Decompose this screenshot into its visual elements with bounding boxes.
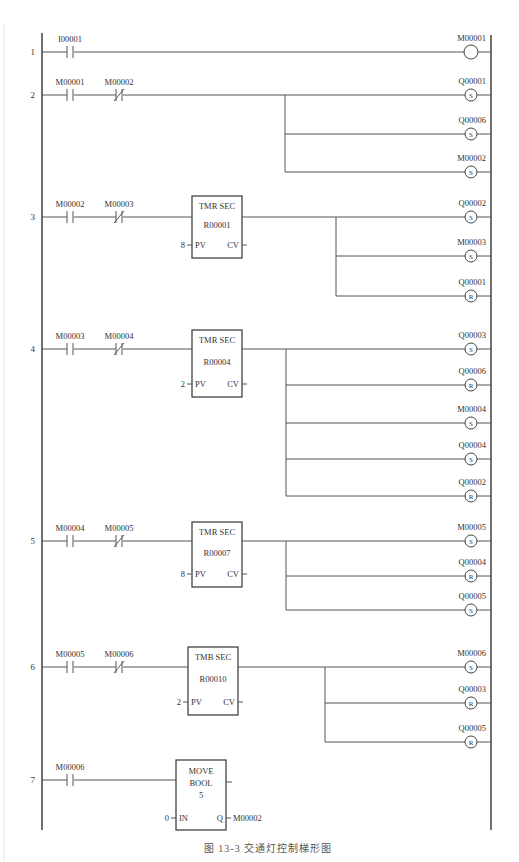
- set-coil[interactable]: SQ00001: [459, 76, 491, 101]
- move-output-target: M00002: [233, 813, 262, 823]
- coil-type-letter: S: [469, 169, 473, 177]
- rung-number: 2: [31, 90, 36, 100]
- rung-5[interactable]: 5M00004M00005TMR SECR000078PVCVSM00005RQ…: [31, 522, 492, 616]
- in-pin-label: IN: [179, 813, 188, 823]
- pv-pin-label: PV: [195, 569, 207, 579]
- normally-closed-contact[interactable]: M00004: [105, 331, 135, 355]
- contact-label: M00005: [105, 523, 134, 533]
- pv-pin-label: PV: [191, 697, 203, 707]
- timer-register: R00004: [204, 357, 232, 367]
- rung-4[interactable]: 4M00003M00004TMR SECR000042PVCVSQ00003RQ…: [31, 330, 492, 502]
- coil-label: M00005: [457, 522, 486, 532]
- rung-7[interactable]: 7M00006MOVEBOOL50INQM00002: [31, 760, 262, 830]
- timer-function-block[interactable]: TMR SECR000078PVCV: [181, 522, 247, 587]
- set-coil[interactable]: SQ00006: [285, 115, 491, 140]
- set-coil[interactable]: SM00002: [285, 153, 491, 178]
- contact-label: M00002: [105, 77, 134, 87]
- output-coil[interactable]: M00001: [457, 33, 491, 59]
- move-function-block[interactable]: MOVEBOOL50INQM00002: [165, 760, 262, 830]
- reset-coil[interactable]: RQ00006: [286, 366, 491, 391]
- contact-label: M00004: [56, 523, 86, 533]
- coil-type-letter: R: [469, 573, 474, 581]
- rung-3[interactable]: 3M00002M00003TMR SECR000018PVCVSQ00002SM…: [31, 196, 492, 302]
- coil-type-letter: R: [469, 493, 474, 501]
- contact-label: M00003: [105, 199, 134, 209]
- contact-label: M00005: [56, 649, 85, 659]
- reset-coil[interactable]: RQ00004: [286, 557, 491, 582]
- ladder-diagram: 1I00001M000012M00001M00002SQ00001SQ00006…: [0, 0, 519, 862]
- coil-label: Q00004: [459, 440, 487, 450]
- preset-value: 8: [181, 569, 185, 579]
- normally-open-contact[interactable]: I00001: [58, 34, 82, 58]
- normally-closed-contact[interactable]: M00002: [105, 77, 134, 101]
- normally-closed-contact[interactable]: M00006: [105, 649, 134, 673]
- rung-number: 6: [31, 662, 36, 672]
- contact-label: I00001: [58, 34, 82, 44]
- contact-label: M00006: [105, 649, 134, 659]
- cv-pin-label: CV: [227, 379, 240, 389]
- timer-function-block[interactable]: TMR SECR000042PVCV: [181, 330, 247, 397]
- coil-icon: [464, 45, 478, 59]
- coil-label: Q00001: [459, 76, 486, 86]
- preset-value: 2: [177, 697, 181, 707]
- rung-2[interactable]: 2M00001M00002SQ00001SQ00006SM00002: [31, 76, 492, 178]
- coil-label: M00002: [457, 153, 486, 163]
- timer-register: R00007: [204, 548, 231, 558]
- timer-register: R00010: [200, 674, 227, 684]
- coil-type-letter: S: [469, 607, 473, 615]
- coil-label: Q00005: [459, 591, 486, 601]
- rung-1[interactable]: 1I00001M00001: [31, 33, 492, 59]
- timer-function-block[interactable]: TMR SECR000018PVCV: [181, 196, 247, 258]
- coil-label: Q00003: [459, 330, 486, 340]
- contact-label: M00006: [56, 762, 85, 772]
- move-input-value: 0: [165, 813, 169, 823]
- coil-label: Q00003: [459, 684, 486, 694]
- coil-label: Q00006: [459, 115, 486, 125]
- reset-coil[interactable]: RQ00005: [325, 723, 491, 748]
- normally-open-contact[interactable]: M00001: [56, 77, 85, 101]
- rung-6[interactable]: 6M00005M00006TMB SECR000102PVCVSM00006RQ…: [31, 647, 492, 748]
- normally-open-contact[interactable]: M00005: [56, 649, 85, 673]
- set-coil[interactable]: SM00003: [336, 237, 491, 262]
- coil-label: Q00005: [459, 723, 486, 733]
- rung-number: 5: [31, 536, 36, 546]
- coil-type-letter: R: [469, 293, 474, 301]
- cv-pin-label: CV: [223, 697, 236, 707]
- normally-closed-contact[interactable]: M00005: [105, 523, 134, 547]
- set-coil[interactable]: SQ00005: [286, 591, 491, 616]
- set-coil[interactable]: SM00004: [286, 404, 491, 429]
- figure-caption: 图 13-3 交通灯控制梯形图: [204, 842, 332, 854]
- coil-type-letter: R: [469, 700, 474, 708]
- reset-coil[interactable]: RQ00002: [286, 477, 491, 502]
- cv-pin-label: CV: [227, 569, 240, 579]
- coil-type-letter: S: [469, 92, 473, 100]
- normally-open-contact[interactable]: M00003: [56, 331, 85, 355]
- set-coil[interactable]: SQ00003: [459, 330, 491, 355]
- set-coil[interactable]: SM00005: [457, 522, 491, 547]
- coil-label: M00004: [457, 404, 487, 414]
- move-title: MOVE: [188, 766, 213, 776]
- coil-type-letter: S: [469, 538, 473, 546]
- coil-type-letter: S: [469, 214, 473, 222]
- reset-coil[interactable]: RQ00003: [325, 684, 491, 709]
- rung-number: 7: [31, 775, 36, 785]
- normally-open-contact[interactable]: M00004: [56, 523, 86, 547]
- move-length: 5: [199, 790, 203, 800]
- coil-label: Q00004: [459, 557, 487, 567]
- contact-label: M00003: [56, 331, 85, 341]
- normally-open-contact[interactable]: M00006: [56, 762, 85, 786]
- reset-coil[interactable]: RQ00001: [336, 277, 491, 302]
- timer-register: R00001: [204, 220, 231, 230]
- contact-label: M00001: [56, 77, 85, 87]
- coil-type-letter: S: [469, 456, 473, 464]
- move-datatype: BOOL: [189, 778, 212, 788]
- set-coil[interactable]: SQ00004: [286, 440, 491, 465]
- power-rails: [42, 33, 491, 830]
- normally-open-contact[interactable]: M00002: [56, 199, 85, 223]
- set-coil[interactable]: SQ00002: [459, 198, 491, 223]
- coil-type-letter: S: [469, 420, 473, 428]
- set-coil[interactable]: SM00006: [457, 648, 491, 673]
- normally-closed-contact[interactable]: M00003: [105, 199, 134, 223]
- timer-function-block[interactable]: TMB SECR000102PVCV: [177, 647, 243, 715]
- timer-type: TMR SEC: [199, 527, 235, 537]
